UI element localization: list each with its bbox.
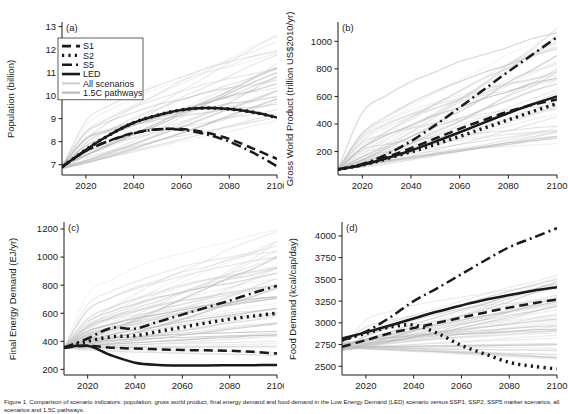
- x-tick-label: 2080: [219, 180, 240, 191]
- y-tick-label: 2750: [315, 339, 336, 350]
- y-tick-label: 10: [45, 90, 56, 101]
- plot-area: [338, 28, 557, 169]
- y-tick-label: 200: [42, 364, 58, 375]
- x-tick-label: 2020: [352, 180, 373, 191]
- x-tick-label: 2100: [546, 380, 567, 391]
- y-axis-label: Gross World Product (trillion US$2010/yr…: [284, 12, 295, 187]
- chart-panel-a: 7891011121320202040206020802100Populatio…: [0, 0, 284, 200]
- y-tick-label: 7: [51, 159, 56, 170]
- y-tick-label: 2500: [315, 361, 336, 372]
- x-tick-label: 2040: [400, 180, 421, 191]
- y-tick-label: 3250: [315, 296, 336, 307]
- x-tick-label: 2020: [77, 380, 98, 391]
- chart-panel-d: 2500275030003250350037504000202020402060…: [284, 200, 568, 400]
- y-tick-label: 600: [42, 308, 58, 319]
- figure-caption: Figure 1. Comparison of scenario indicat…: [4, 398, 564, 414]
- legend: S1S2S5LEDAll scenarios1.5C pathways: [58, 38, 143, 100]
- y-tick-label: 4000: [315, 230, 336, 241]
- y-tick-label: 12: [45, 44, 56, 55]
- x-tick-label: 2060: [449, 180, 470, 191]
- y-tick-label: 9: [51, 113, 56, 124]
- y-tick-label: 400: [42, 336, 58, 347]
- chart-panel-c: 2004006008001000120020202040206020802100…: [0, 200, 284, 400]
- y-tick-label: 8: [51, 136, 56, 147]
- envelope-all-scenarios: [338, 28, 557, 169]
- x-tick-label: 2040: [124, 380, 145, 391]
- y-tick-label: 800: [316, 63, 332, 74]
- y-tick-label: 3750: [315, 252, 336, 263]
- panel-label: (b): [342, 22, 354, 33]
- x-tick-label: 2020: [75, 180, 96, 191]
- x-tick-label: 2100: [266, 380, 284, 391]
- x-tick-label: 2100: [266, 180, 284, 191]
- x-tick-label: 2060: [172, 380, 193, 391]
- y-tick-label: 11: [46, 67, 56, 78]
- x-tick-label: 2100: [546, 180, 567, 191]
- chart-panel-b: 200400600800100020202040206020802100Gros…: [284, 0, 568, 200]
- x-tick-label: 2020: [355, 380, 376, 391]
- legend-label: 1.5C pathways: [83, 88, 143, 98]
- panel-label: (c): [68, 222, 79, 233]
- x-tick-label: 2040: [123, 180, 144, 191]
- x-tick-label: 2060: [451, 380, 472, 391]
- y-tick-label: 400: [316, 118, 332, 129]
- x-tick-label: 2080: [219, 380, 240, 391]
- y-tick-label: 200: [316, 146, 332, 157]
- y-axis-label: Final Energy Demand (EJ/yr): [7, 238, 18, 360]
- x-tick-label: 2080: [498, 180, 519, 191]
- y-tick-label: 1000: [311, 36, 332, 47]
- y-axis-label: Food Demand (kcal/cap/day): [287, 238, 298, 360]
- x-tick-label: 2060: [171, 180, 192, 191]
- y-tick-label: 1000: [37, 251, 58, 262]
- y-tick-label: 800: [42, 280, 58, 291]
- plot-area: [64, 230, 277, 366]
- y-tick-label: 600: [316, 91, 332, 102]
- panel-label: (a): [66, 22, 78, 33]
- y-axis-label: Population (billion): [5, 60, 16, 138]
- y-tick-label: 1200: [37, 223, 58, 234]
- y-tick-label: 3500: [315, 274, 336, 285]
- x-tick-label: 2040: [403, 380, 424, 391]
- x-tick-label: 2080: [499, 380, 520, 391]
- y-tick-label: 3000: [315, 317, 336, 328]
- y-tick-label: 13: [45, 21, 56, 32]
- panel-label: (d): [346, 222, 358, 233]
- plot-area: [342, 228, 557, 369]
